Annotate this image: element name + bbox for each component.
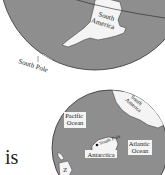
bottom-globe-ocean: [52, 90, 165, 175]
top-globe: South America South Pole: [0, 0, 165, 74]
atlantic-ocean-label: Atlantic Ocean: [129, 140, 152, 154]
south-pole-label: South Pole: [17, 57, 49, 74]
bottom-globe: Pacific Ocean South America South Pole A…: [52, 90, 165, 175]
body-text-fragment: is: [5, 146, 18, 169]
south-pole-dot: [96, 144, 99, 147]
globe-diagram: South America South Pole Pacific Ocean S…: [0, 0, 165, 175]
pacific-ocean-label: Pacific Ocean: [65, 112, 85, 126]
partial-z-label: Z: [63, 166, 67, 174]
antarctica-label: Antarctica: [87, 151, 114, 158]
